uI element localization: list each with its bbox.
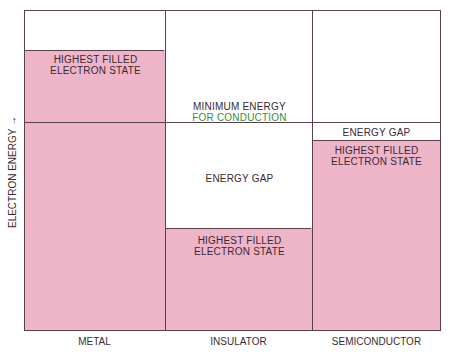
y-axis-label: ELECTRON ENERGY → xyxy=(7,116,18,228)
conduction-energy-line xyxy=(25,122,440,123)
divider-metal-insulator xyxy=(165,11,166,330)
metal-filled-label: HIGHEST FILLED ELECTRON STATE xyxy=(25,54,166,76)
category-semiconductor: SEMICONDUCTOR xyxy=(312,336,441,347)
insulator-energy-gap-label: ENERGY GAP xyxy=(166,173,313,184)
insulator-filled-label: HIGHEST FILLED ELECTRON STATE xyxy=(166,235,313,257)
divider-insulator-semiconductor xyxy=(312,11,313,330)
metal-filled-region xyxy=(25,50,166,330)
semiconductor-filled-label: HIGHEST FILLED ELECTRON STATE xyxy=(313,145,440,167)
metal-highest-filled-line xyxy=(25,50,164,51)
insulator-min-energy-label: MINIMUM ENERGY FOR CONDUCTION xyxy=(166,101,313,123)
insulator-highest-filled-line xyxy=(166,228,311,229)
semiconductor-filled-region xyxy=(313,140,440,330)
category-metal: METAL xyxy=(24,336,165,347)
energy-band-diagram: HIGHEST FILLED ELECTRON STATE MINIMUM EN… xyxy=(24,10,441,331)
category-insulator: INSULATOR xyxy=(165,336,312,347)
semiconductor-energy-gap-label: ENERGY GAP xyxy=(313,127,440,138)
semiconductor-highest-filled-line xyxy=(313,140,440,141)
